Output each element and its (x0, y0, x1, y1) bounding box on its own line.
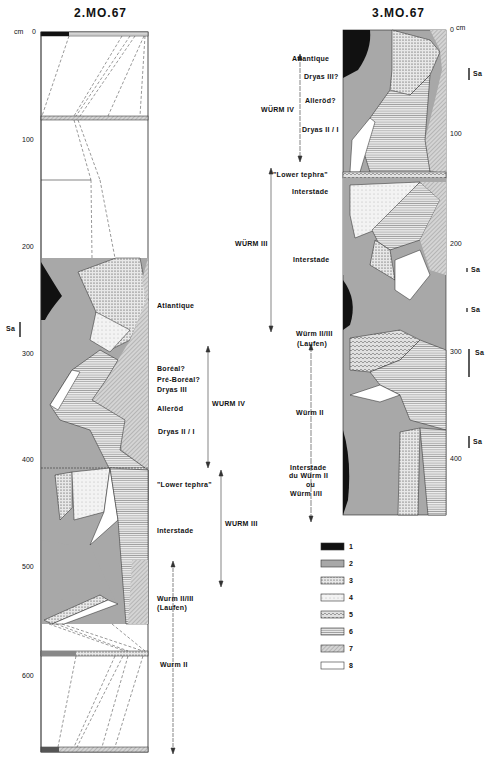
legend-num-7: 7 (349, 645, 353, 652)
left-stage-laufen: (Laufen) (157, 604, 187, 611)
left-stage-allerod: Alleröd (157, 405, 183, 412)
left-tick-0: 0 (32, 28, 36, 35)
right-stage-ou: ou (306, 481, 315, 488)
right-stage-allerod: Alleröd? (305, 97, 336, 104)
right-stage-interstade-1: Interstade (292, 188, 328, 195)
right-stage-wurm2: Würm II (296, 409, 324, 416)
left-tick-600: 600 (22, 672, 34, 679)
left-tick-400: 400 (22, 456, 34, 463)
left-stage-dryas21: Dryas II / I (158, 428, 195, 435)
left-profile-column (41, 32, 148, 752)
right-stage-wurm23: Würm II/III (296, 330, 333, 337)
right-stage-interstade-2: Interstade (293, 256, 329, 263)
left-tick-500: 500 (22, 563, 34, 570)
right-tick-200: 200 (450, 240, 462, 247)
diagram-canvas (0, 0, 495, 758)
left-stage-preboreal: Pré-Boréal? (157, 376, 200, 383)
right-sa-marker-3: Sa (471, 306, 480, 313)
left-tick-200: 200 (22, 243, 34, 250)
legend-num-3: 3 (349, 577, 353, 584)
right-profile-title: 3.MO.67 (372, 6, 425, 20)
legend-num-2: 2 (349, 560, 353, 567)
right-stage-lower-tephra: "Lower tephra" (273, 171, 328, 178)
left-phase-wurm3: WURM III (225, 520, 258, 527)
left-stage-atlantique: Atlantique (157, 302, 194, 309)
right-phase-wurm3: WÜRM III (235, 240, 268, 247)
left-stage-wurm2: Wurm II (160, 661, 188, 668)
right-sa-marker-5: Sa (473, 438, 482, 445)
left-stage-interstade: Interstade (157, 527, 193, 534)
legend-swatches (321, 543, 344, 669)
left-stage-lower-tephra: "Lower tephra" (157, 481, 212, 488)
left-profile-title: 2.MO.67 (74, 6, 127, 20)
legend-num-4: 4 (349, 594, 353, 601)
left-phase-wurm4: WURM IV (212, 400, 245, 407)
right-stage-du-wurm2: du Würm II (289, 472, 328, 479)
right-stage-laufen: (Laufen) (297, 340, 327, 347)
right-stage-dryas3: Dryas III? (304, 73, 339, 80)
right-sa-marker-2: Sa (471, 266, 480, 273)
legend-num-1: 1 (349, 543, 353, 550)
left-stage-boreal: Boréal? (157, 365, 185, 372)
left-stage-wurm23: Wurm II/III (157, 595, 194, 602)
legend-num-6: 6 (349, 628, 353, 635)
legend-num-5: 5 (349, 611, 353, 618)
legend-num-8: 8 (349, 662, 353, 669)
left-sa-marker: Sa (6, 325, 15, 332)
right-stage-wurm12: Würm I/II (290, 490, 322, 497)
right-phase-wurm4: WÜRM IV (261, 106, 294, 113)
right-tick-100: 100 (450, 130, 462, 137)
left-tick-100: 100 (22, 136, 34, 143)
right-tick-300: 300 (450, 348, 462, 355)
right-stage-interstade-wurm: Interstade (290, 464, 326, 471)
right-stage-dryas21: Dryas II / I (302, 126, 339, 133)
left-stage-dryas3: Dryas III (157, 386, 187, 393)
right-sa-marker-1: Sa (473, 70, 482, 77)
right-tick-400: 400 (450, 455, 462, 462)
right-sa-marker-4: Sa (475, 349, 484, 356)
left-tick-300: 300 (22, 350, 34, 357)
right-unit-label: cm (456, 24, 465, 31)
right-tick-0: 0 (450, 26, 454, 33)
left-unit-label: cm (14, 28, 23, 35)
right-stage-atlantique: Atlantique (292, 55, 329, 62)
right-profile-column (343, 30, 446, 515)
